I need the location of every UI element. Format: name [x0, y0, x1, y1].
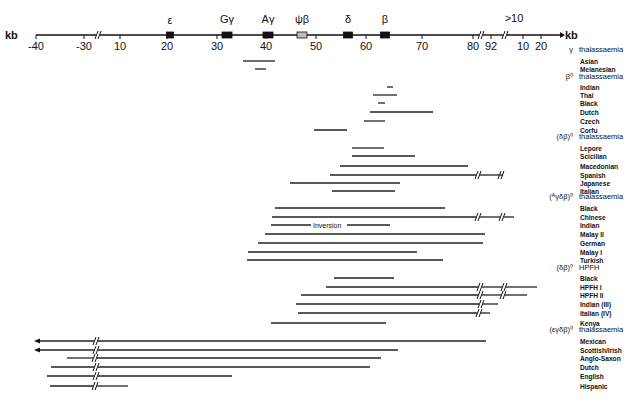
- row-label: English: [580, 373, 604, 381]
- axis-tick-label: 10: [517, 40, 529, 52]
- group-prefix: (δβ)⁰: [557, 132, 573, 141]
- axis-tick-label: 20: [161, 40, 173, 52]
- group-prefix: (δβ)⁰: [557, 263, 573, 272]
- gene-label: δ: [345, 13, 351, 25]
- group-heading: HPFH: [579, 263, 599, 272]
- axis-unit-right: kb: [565, 29, 578, 41]
- gene-box-2: [263, 32, 273, 38]
- axis-tick-label: 60: [360, 40, 372, 52]
- row-label: Black: [580, 205, 598, 212]
- axis-tick-label: 40: [260, 40, 272, 52]
- row-label: HPFH II: [580, 292, 604, 299]
- axis-tick-label: 50: [310, 40, 322, 52]
- row-label: Black: [580, 100, 598, 107]
- axis-tick-label: 30: [211, 40, 223, 52]
- arrow-left-icon: [34, 348, 40, 353]
- globin-deletion-diagram: kbkb-40-301020304050607080921020>10εGγAγ…: [0, 0, 635, 402]
- gene-box-5: [381, 32, 390, 38]
- group-heading: thalassaemia: [579, 72, 624, 81]
- axis-tick-label: 10: [114, 40, 126, 52]
- row-label: Asian: [580, 58, 598, 65]
- axis-tick-label: 80: [467, 40, 479, 52]
- row-label: Macedonian: [580, 163, 618, 170]
- gene-box-1: [222, 32, 232, 38]
- row-label: Japanese: [580, 180, 610, 188]
- gene-label: Aγ: [262, 13, 275, 25]
- gene-label: ψβ: [295, 13, 309, 25]
- group-heading: thalassaemia: [579, 325, 624, 334]
- row-label: Lepore: [580, 145, 602, 153]
- diagram-canvas: kbkb-40-301020304050607080921020>10εGγAγ…: [0, 0, 635, 402]
- row-label: Czech: [580, 118, 599, 125]
- row-label: HPFH I: [580, 284, 602, 291]
- axis-tick-label: -30: [76, 40, 92, 52]
- group-heading: thalassaemia: [579, 132, 624, 141]
- row-label: Chinese: [580, 214, 606, 221]
- group-heading: thalassaemia: [579, 45, 624, 54]
- axis-tick-label: 70: [416, 40, 428, 52]
- inline-annotation: Inversion: [313, 222, 342, 229]
- gene-box-4: [344, 32, 353, 38]
- row-label: Spanish: [580, 172, 606, 180]
- row-label: Anglo-Saxon: [580, 355, 621, 363]
- figure-caption-cropped: [58, 394, 578, 402]
- group-heading: thalassaemia: [579, 192, 624, 201]
- row-label: Thai: [580, 92, 594, 99]
- axis-tick-label: 92: [485, 40, 497, 52]
- arrow-left-icon: [34, 339, 40, 344]
- row-label: Hispanic: [580, 383, 608, 391]
- gene-box-0: [167, 32, 174, 38]
- axis-unit-left: kb: [5, 29, 18, 41]
- gene-box-3: [297, 32, 307, 38]
- row-label: Mexican: [580, 338, 606, 345]
- row-label: Malay I: [580, 249, 602, 257]
- row-label: Indian: [580, 84, 599, 91]
- group-prefix: (εγδβ)⁰: [549, 325, 573, 334]
- row-label: German: [580, 240, 605, 247]
- row-label: Dutch: [580, 364, 599, 371]
- gene-label: Gγ: [220, 13, 235, 25]
- axis-over-label: >10: [505, 12, 524, 24]
- row-label: Malay II: [580, 231, 604, 239]
- row-label: Scicilian: [580, 153, 607, 160]
- gene-label: β: [382, 13, 388, 25]
- row-label: Dutch: [580, 109, 599, 116]
- row-label: Italian (IV): [580, 310, 612, 318]
- row-label: Black: [580, 275, 598, 282]
- gene-label: ε: [168, 14, 173, 26]
- row-label: Indian: [580, 222, 599, 229]
- group-prefix: (ᴬγδβ)⁰: [549, 192, 573, 201]
- row-label: Scottish/Irish: [580, 347, 622, 354]
- row-label: Indian (III): [580, 301, 611, 309]
- axis-tick-label: -40: [28, 40, 44, 52]
- group-prefix: γ: [569, 45, 573, 54]
- group-prefix: β⁰: [566, 72, 573, 81]
- axis-tick-label: 20: [535, 40, 547, 52]
